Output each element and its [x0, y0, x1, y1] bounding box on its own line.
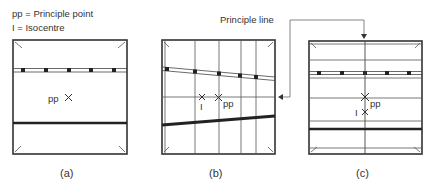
panel-c: pp I (c) — [309, 41, 422, 179]
principal-point-cross-icon — [215, 94, 222, 101]
panel-a: pp (a) — [13, 40, 127, 179]
double-line-with-markers — [309, 71, 422, 75]
leader-line-to-c — [290, 20, 364, 36]
pp-label: pp — [48, 93, 59, 104]
principle-line-label: Principle line — [220, 14, 274, 25]
arrowhead-down-icon — [361, 34, 367, 39]
photogrammetry-diagram: pp = Principle point I = Isocentre Princ… — [0, 0, 434, 187]
caption-a: (a) — [60, 167, 73, 179]
pp-label: pp — [223, 98, 234, 109]
caption-b: (b) — [209, 167, 222, 179]
leader-line-to-b — [281, 20, 290, 97]
principal-point-cross-icon — [65, 94, 72, 101]
pp-label: pp — [370, 98, 381, 109]
principle-line-annotation: Principle line — [220, 14, 367, 100]
legend-principle-point: pp = Principle point — [12, 8, 93, 19]
arrowhead-left-icon — [278, 94, 283, 100]
frame — [13, 40, 127, 154]
tilted-double-line-with-markers — [162, 67, 275, 81]
double-line-with-markers — [13, 68, 127, 72]
tilted-thick-line — [162, 116, 275, 125]
panel-b: I pp (b) — [162, 40, 275, 179]
i-label: I — [200, 101, 203, 112]
fiducial-marks — [15, 42, 125, 152]
legend: pp = Principle point I = Isocentre — [12, 8, 93, 33]
caption-c: (c) — [356, 167, 369, 179]
i-label: I — [355, 107, 358, 118]
legend-isocentre: I = Isocentre — [12, 22, 65, 33]
